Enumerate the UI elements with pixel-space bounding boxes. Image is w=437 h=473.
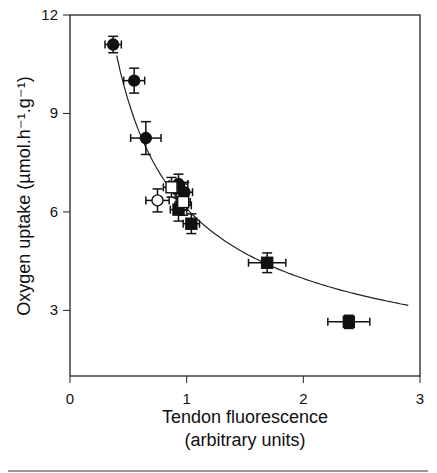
data-point-circle-filled <box>131 122 161 155</box>
x-tick-label: 2 <box>299 390 307 407</box>
data-point-square-filled <box>183 214 199 234</box>
x-tick-label: 3 <box>416 390 424 407</box>
y-tick-label: 9 <box>50 104 58 121</box>
data-point-circle-filled <box>124 68 145 93</box>
data-point-square-filled <box>328 315 370 328</box>
x-tick-label: 0 <box>66 390 74 407</box>
y-axis-title: Oxygen uptake (µmol.h⁻¹.g⁻¹) <box>14 76 34 315</box>
bottom-divider <box>8 470 428 472</box>
y-axis-ticks: 36912 <box>41 6 70 318</box>
x-axis-ticks: 0123 <box>66 376 424 407</box>
data-point-square-open <box>176 194 190 210</box>
y-tick-label: 6 <box>50 203 58 220</box>
data-points <box>105 36 370 328</box>
x-tick-label: 1 <box>182 390 190 407</box>
y-tick-label: 3 <box>50 301 58 318</box>
y-tick-label: 12 <box>41 6 58 23</box>
x-axis-title-line1: Tendon fluorescence <box>162 407 328 427</box>
data-point-circle-filled <box>105 36 121 52</box>
scatter-chart: 0123 36912 Tendon fluorescence (arbitrar… <box>0 0 437 473</box>
x-axis-title-line2: (arbitrary units) <box>184 430 305 450</box>
